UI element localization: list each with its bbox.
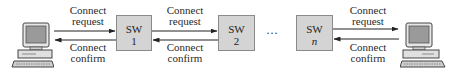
request-label: Connect request xyxy=(343,5,393,27)
confirm-label: Connect confirm xyxy=(160,42,210,64)
connection-setup-diagram: SW 1 SW 2 SW n ··· Connect request Conne… xyxy=(0,0,450,73)
confirm-label: Connect confirm xyxy=(343,42,393,64)
request-label: Connect request xyxy=(160,5,210,27)
confirm-label: Connect confirm xyxy=(63,42,113,64)
request-label: Connect request xyxy=(63,5,113,27)
